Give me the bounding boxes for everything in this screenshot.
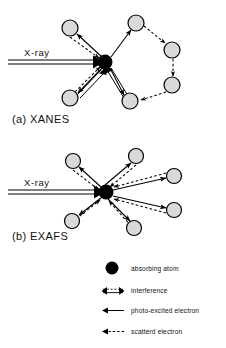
atom-right-upper <box>164 42 180 58</box>
caption-exafs: (b) EXAFS <box>12 230 68 242</box>
legend-label-photo-excited-electron: photo-excited electron <box>131 307 199 315</box>
atom-bottom <box>122 93 138 109</box>
legend-label-absorbing-atom: absorbing atom <box>131 265 179 273</box>
caption-xanes: (a) XANES <box>12 113 69 125</box>
xray-label-exafs: X-ray <box>24 177 50 188</box>
atom-lower-left <box>65 214 80 229</box>
atom-right-upper <box>167 169 182 184</box>
atom-right-lower <box>167 203 182 218</box>
absorbing-atom-exafs <box>99 185 114 200</box>
absorbing-atom-xanes <box>98 55 113 70</box>
atom-upper-left <box>62 20 78 36</box>
atom-top-right <box>129 149 144 164</box>
figure-canvas: X-ray <box>0 0 226 348</box>
xray-label-xanes: X-ray <box>24 47 50 58</box>
atom-lower-left <box>62 90 78 106</box>
atom-right-lower <box>164 77 180 93</box>
atom-top <box>128 15 144 31</box>
atom-bottom-right <box>127 221 142 236</box>
filled-circle-icon <box>106 262 119 275</box>
xafs-figure: X-ray <box>0 0 226 348</box>
legend-label-interference: interference <box>131 287 168 294</box>
legend-label-scattered-electron: scatterd electron <box>131 328 182 335</box>
atom-upper-left <box>66 154 81 169</box>
